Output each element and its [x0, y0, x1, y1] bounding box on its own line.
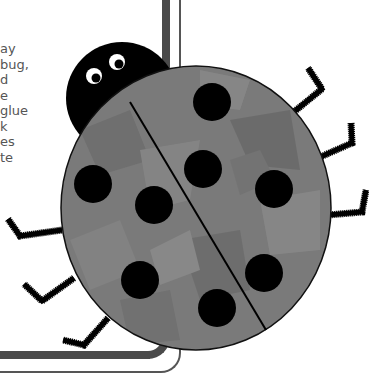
spot — [121, 261, 159, 299]
spot — [198, 289, 236, 327]
spot — [245, 254, 283, 292]
spot — [193, 83, 231, 121]
spot — [255, 170, 293, 208]
spot — [74, 165, 112, 203]
eye-icon — [109, 54, 125, 70]
spot — [135, 186, 173, 224]
eye-icon — [86, 68, 102, 84]
ladybug-illustration — [0, 0, 369, 373]
spot — [184, 150, 222, 188]
